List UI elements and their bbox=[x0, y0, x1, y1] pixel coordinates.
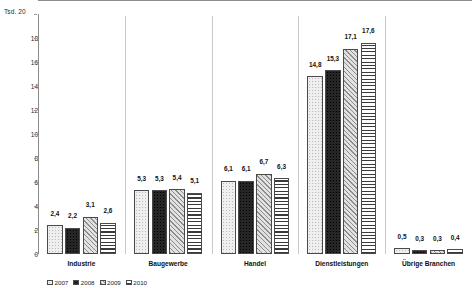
y-axis-tick-mark bbox=[34, 206, 37, 207]
y-axis-tick-mark bbox=[34, 230, 37, 231]
bar-value-label: 6,7 bbox=[256, 158, 272, 165]
y-axis-tick-mark bbox=[34, 14, 37, 15]
bar[interactable] bbox=[152, 190, 168, 254]
bar-value-label: 15,3 bbox=[325, 55, 341, 62]
bar[interactable] bbox=[274, 178, 290, 254]
bar-value-label: 17,1 bbox=[343, 33, 359, 40]
bar-value-label: 2,6 bbox=[100, 207, 116, 214]
y-axis-tick-mark bbox=[34, 182, 37, 183]
bar[interactable] bbox=[447, 249, 463, 254]
bar-value-label: 2,4 bbox=[47, 210, 63, 217]
bar-chart: Tsd. 20 024681012141618 2,42,23,12,65,35… bbox=[0, 0, 474, 288]
x-axis-line bbox=[38, 0, 472, 1]
bar[interactable] bbox=[169, 189, 185, 254]
bar[interactable] bbox=[307, 76, 323, 254]
y-axis-tick-mark bbox=[34, 158, 37, 159]
bar[interactable] bbox=[47, 225, 63, 254]
panel-separator bbox=[212, 16, 213, 254]
bar-value-label: 17,6 bbox=[361, 27, 377, 34]
y-axis-tick-mark bbox=[34, 254, 37, 255]
bar-value-label: 5,3 bbox=[134, 175, 150, 182]
y-axis-tick-mark bbox=[34, 62, 37, 63]
legend-label: 2009 bbox=[107, 279, 121, 286]
legend-item[interactable]: 2010 bbox=[126, 279, 147, 286]
bar-value-label: 0,4 bbox=[447, 234, 463, 241]
bar-value-label: 0,5 bbox=[394, 233, 410, 240]
bar-value-label: 5,1 bbox=[187, 177, 203, 184]
bar[interactable] bbox=[83, 217, 99, 254]
bar-group: 14,815,317,117,6 bbox=[298, 14, 385, 254]
panel-separator bbox=[385, 16, 386, 254]
legend-label: 2008 bbox=[81, 279, 95, 286]
bar[interactable] bbox=[343, 49, 359, 254]
category-label: Handel bbox=[244, 260, 266, 267]
category-label: Übrige Branchen bbox=[402, 260, 455, 267]
legend-label: 2007 bbox=[55, 279, 69, 286]
bar-value-label: 0,3 bbox=[412, 235, 428, 242]
bar-group: 2,42,23,12,6 bbox=[38, 14, 125, 254]
bar[interactable] bbox=[238, 181, 254, 254]
legend-swatch bbox=[73, 280, 79, 285]
bar[interactable] bbox=[134, 190, 150, 254]
y-axis-tick-mark bbox=[34, 110, 37, 111]
legend-item[interactable]: 2009 bbox=[100, 279, 121, 286]
category-label: Industrie bbox=[67, 260, 95, 267]
category-label: Baugewerbe bbox=[149, 260, 188, 267]
bar[interactable] bbox=[361, 43, 377, 254]
plot-area: 2,42,23,12,65,35,35,45,16,16,16,76,314,8… bbox=[38, 14, 472, 254]
bar-value-label: 3,1 bbox=[83, 201, 99, 208]
panel-separator bbox=[298, 16, 299, 254]
bar[interactable] bbox=[325, 70, 341, 254]
bar-value-label: 6,1 bbox=[238, 165, 254, 172]
bar-value-label: 5,4 bbox=[169, 174, 185, 181]
bar-group: 5,35,35,45,1 bbox=[125, 14, 212, 254]
bar[interactable] bbox=[65, 228, 81, 254]
chart-legend: 2007200820092010 bbox=[47, 279, 147, 286]
bar[interactable] bbox=[187, 193, 203, 254]
y-axis-tick-mark bbox=[34, 134, 37, 135]
bar-value-label: 2,2 bbox=[65, 212, 81, 219]
bar-value-label: 0,3 bbox=[430, 235, 446, 242]
legend-swatch bbox=[47, 280, 53, 285]
bar-value-label: 6,3 bbox=[274, 163, 290, 170]
legend-item[interactable]: 2008 bbox=[73, 279, 94, 286]
bar-group: 0,50,30,30,4 bbox=[385, 14, 472, 254]
bar-value-label: 6,1 bbox=[221, 165, 237, 172]
category-label: Dienstleistungen bbox=[315, 260, 368, 267]
y-axis-tick-mark bbox=[34, 86, 37, 87]
panel-separator bbox=[125, 16, 126, 254]
legend-swatch bbox=[100, 280, 106, 285]
legend-label: 2010 bbox=[133, 279, 147, 286]
bar[interactable] bbox=[256, 174, 272, 254]
legend-item[interactable]: 2007 bbox=[47, 279, 68, 286]
bar-group: 6,16,16,76,3 bbox=[212, 14, 299, 254]
bar[interactable] bbox=[394, 248, 410, 254]
y-axis-ticks: 024681012141618 bbox=[0, 0, 38, 288]
bar-value-label: 14,8 bbox=[307, 61, 323, 68]
legend-swatch bbox=[126, 280, 132, 285]
bar-value-label: 5,3 bbox=[152, 175, 168, 182]
bar[interactable] bbox=[412, 250, 428, 254]
bar[interactable] bbox=[430, 250, 446, 254]
bar[interactable] bbox=[221, 181, 237, 254]
y-axis-tick-mark bbox=[34, 38, 37, 39]
bar[interactable] bbox=[100, 223, 116, 254]
